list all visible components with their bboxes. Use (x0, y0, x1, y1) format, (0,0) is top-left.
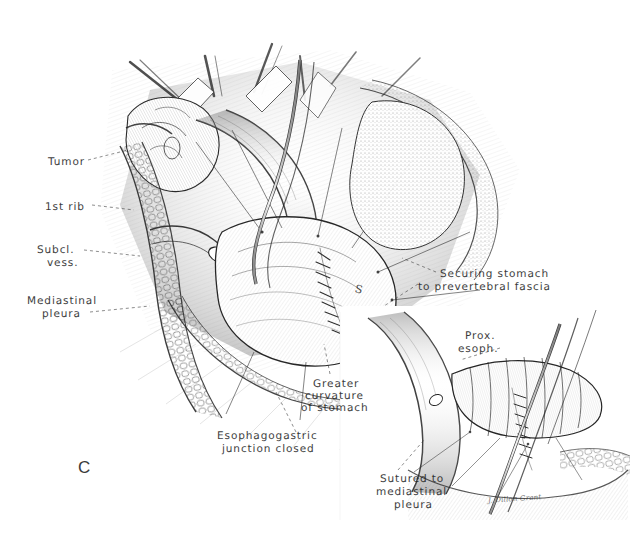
label-sutured-pleura-line1: Sutured to (380, 473, 444, 486)
label-greater-curvature-line3: of stomach (301, 402, 369, 415)
label-sutured-pleura-line3: pleura (394, 499, 433, 512)
label-subclavian-vessels-line2: vess. (47, 257, 78, 270)
label-securing-stomach-line1: Securing stomach (440, 268, 549, 281)
label-subclavian-vessels-line1: Subcl. (37, 244, 74, 257)
label-egj-closed-line2: junction closed (222, 443, 315, 456)
label-egj-closed-line1: Esophagogastric (217, 430, 318, 443)
surgical-illustration-figure: Tumor 1st rib Subcl. vess. Mediastinal p… (0, 0, 632, 546)
label-mediastinal-pleura-line1: Mediastinal (27, 295, 97, 308)
label-sutured-pleura-line2: mediastinal (376, 486, 447, 499)
label-securing-stomach-line2: to prevertebral fascia (418, 281, 551, 294)
label-prox-esoph-line2: esoph. (458, 343, 498, 356)
label-tumor: Tumor (48, 156, 85, 169)
label-prox-esoph-line1: Prox. (465, 330, 495, 343)
label-greater-curvature-line2: curvature (305, 390, 364, 403)
label-first-rib: 1st rib (45, 201, 85, 214)
label-greater-curvature-line1: Greater (313, 378, 359, 391)
label-mediastinal-pleura-line2: pleura (42, 308, 81, 321)
panel-letter-c: C (78, 458, 90, 478)
